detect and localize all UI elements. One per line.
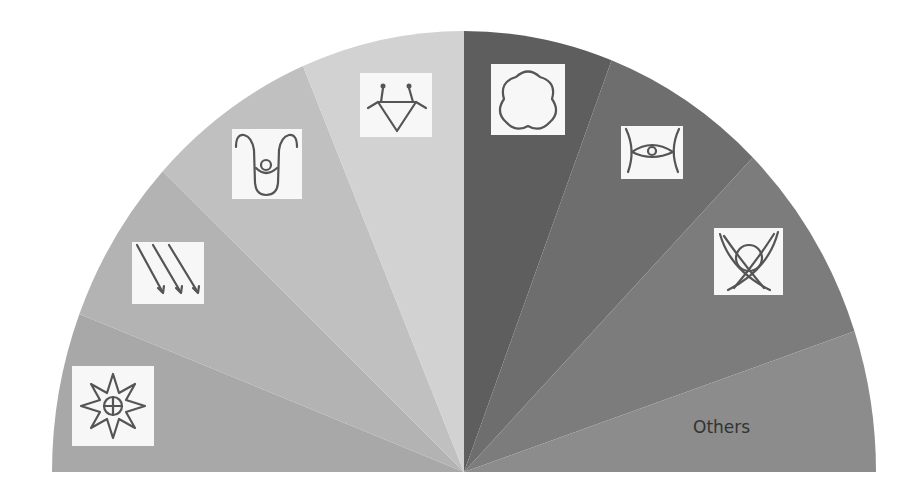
eye-arcs-icon bbox=[621, 126, 683, 179]
u-figure-icon bbox=[232, 129, 302, 199]
crossed-blades-icon bbox=[714, 228, 783, 295]
semicircle-chart: Others bbox=[0, 0, 923, 503]
quatrefoil-icon bbox=[491, 64, 565, 135]
others-label: Others bbox=[693, 417, 750, 437]
eight-pointed-star-icon bbox=[72, 366, 154, 446]
diagonal-arrows-icon bbox=[132, 242, 204, 304]
hooked-triangle-icon bbox=[360, 73, 432, 137]
